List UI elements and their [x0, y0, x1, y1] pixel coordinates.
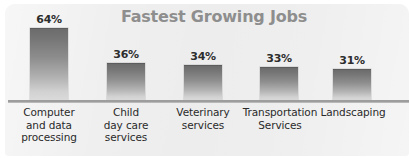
plot-area: 64%Computerand dataprocessing36%Childday…	[0, 0, 409, 158]
bar-category-label-line: Computer	[12, 106, 86, 119]
bar-category-label-line: Services	[238, 119, 322, 132]
bar-category-label-line: services	[165, 119, 241, 132]
bar-value-label: 64%	[22, 13, 76, 26]
bar-category-label-line: day care	[89, 119, 163, 132]
bar-category-label-line: processing	[12, 131, 86, 144]
bar-value-label: 31%	[325, 54, 379, 67]
bar-category-label-line: Landscaping	[320, 106, 386, 119]
bar-category-label: Childday careservices	[89, 106, 163, 144]
bar-category-label: Landscaping	[320, 106, 386, 119]
bar-category-label-line: Child	[89, 106, 163, 119]
bar-category-label-line: Transportation	[238, 106, 322, 119]
bar	[184, 65, 222, 102]
bar-category-label: Veterinaryservices	[165, 106, 241, 131]
bar	[30, 28, 68, 102]
bar-category-label-line: services	[89, 131, 163, 144]
bar-value-label: 34%	[176, 50, 230, 63]
bar-value-label: 33%	[252, 52, 306, 65]
axis-baseline	[8, 100, 409, 103]
bar-value-label: 36%	[99, 48, 153, 61]
bar-category-label: TransportationServices	[238, 106, 322, 131]
fastest-growing-jobs-chart: Fastest Growing Jobs 64%Computerand data…	[0, 0, 409, 158]
bar	[260, 67, 298, 102]
bar-category-label-line: and data	[12, 119, 86, 132]
bar-category-label-line: Veterinary	[165, 106, 241, 119]
bar	[333, 69, 371, 102]
bar-category-label: Computerand dataprocessing	[12, 106, 86, 144]
bar	[107, 63, 145, 102]
